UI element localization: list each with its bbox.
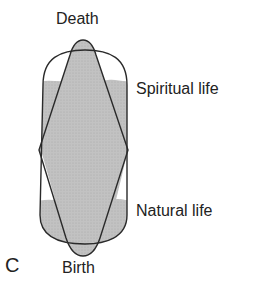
spiritual-life-label: Spiritual life	[136, 81, 219, 97]
panel-letter: C	[5, 255, 19, 275]
death-label: Death	[56, 11, 99, 27]
life-diagram-figure	[0, 0, 261, 283]
natural-life-label: Natural life	[136, 203, 212, 219]
birth-label: Birth	[62, 260, 95, 276]
